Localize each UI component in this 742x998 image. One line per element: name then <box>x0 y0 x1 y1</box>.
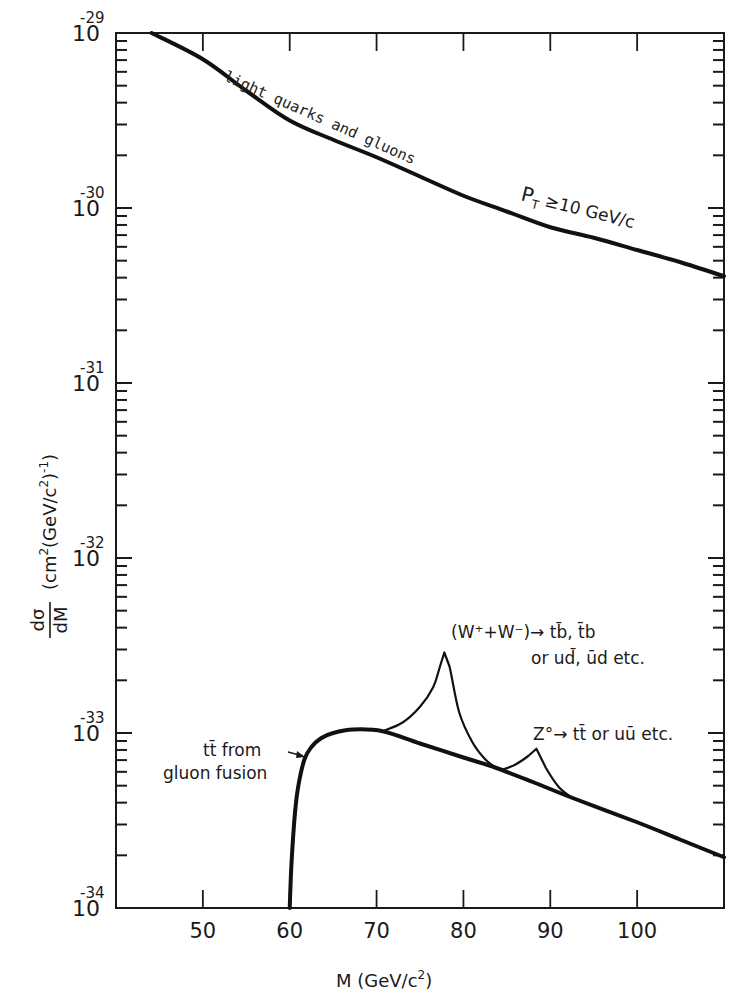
svg-text:dM: dM <box>50 607 71 634</box>
annotation-z-decay: Z°→ tt̄ or uū etc. <box>533 723 673 744</box>
series-line-0 <box>152 33 724 276</box>
x-axis-ticks <box>203 33 637 908</box>
svg-text:(cm2(GeV/c2)-1): (cm2(GeV/c2)-1) <box>37 454 60 590</box>
cross-section-chart: 10-2910-3010-3110-3210-3310-34 506070809… <box>0 0 742 998</box>
y-tick-label-exponent: -30 <box>80 184 105 202</box>
svg-text:dσ: dσ <box>27 609 48 632</box>
annotation-light-quarks: light quarks and gluons <box>221 67 418 168</box>
annotation-ttbar-line2: gluon fusion <box>163 763 267 783</box>
y-tick-label-exponent: -34 <box>80 884 105 902</box>
x-axis-tick-labels: 5060708090100 <box>189 919 657 943</box>
y-axis-tick-labels: 10-2910-3010-3110-3210-3310-34 <box>72 9 105 921</box>
y-axis-title: dσ dM (cm2(GeV/c2)-1) <box>27 454 71 638</box>
y-tick-label-exponent: -29 <box>80 9 105 27</box>
annotation-w-decay-line1: (W⁺+W⁻)→ tb̄, t̄b <box>451 621 595 642</box>
x-tick-label: 60 <box>276 919 303 943</box>
y-tick-label-exponent: -31 <box>80 359 105 377</box>
arrow-icon <box>288 751 305 758</box>
series-line-1 <box>290 729 724 908</box>
x-tick-label: 100 <box>617 919 657 943</box>
x-tick-label: 50 <box>189 919 216 943</box>
annotation-pt-cut: PT ≥10 GeV/c <box>518 182 638 236</box>
x-tick-label: 70 <box>363 919 390 943</box>
x-tick-label: 80 <box>450 919 477 943</box>
x-tick-label: 90 <box>537 919 564 943</box>
y-tick-label-exponent: -32 <box>80 534 105 552</box>
x-axis-title: M (GeV/c2) <box>336 968 432 991</box>
annotation-w-decay-line2: or ud̄, ūd etc. <box>531 647 645 668</box>
annotation-ttbar-line1: tt̄ from <box>203 739 261 760</box>
y-tick-label-exponent: -33 <box>80 709 105 727</box>
